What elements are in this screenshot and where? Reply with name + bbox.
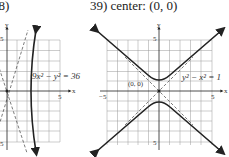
tick-y-bottom: 5 — [0, 140, 4, 148]
tick-x-left: −5 — [99, 93, 107, 101]
center-label: (0, 0) — [128, 80, 144, 88]
tick-y-top: 5 — [0, 35, 4, 43]
equation-39: y² − x² = 1 — [181, 72, 221, 82]
y-axis-label: y — [5, 21, 9, 29]
x-axis-label: x — [72, 87, 76, 95]
graphs: x y 5 5 5 9x² − y² = 36 x y 5 5 −5 5 y² … — [0, 0, 229, 157]
tick-x: 5 — [58, 93, 62, 101]
tick-y-bottom: 5 — [153, 139, 157, 147]
equation-38: 9x² − y² = 36 — [32, 71, 81, 81]
tick-y-top: 5 — [153, 35, 157, 43]
y-axis-label: y — [157, 21, 161, 29]
x-axis-label: x — [224, 87, 228, 95]
tick-x-right: 5 — [211, 93, 215, 101]
